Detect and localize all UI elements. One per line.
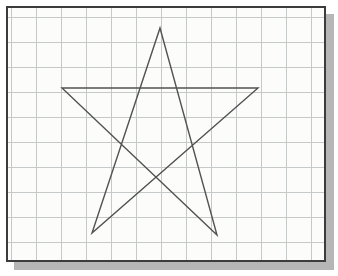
graph-paper-grid [8,8,324,260]
star-polygon [62,28,258,235]
page-background [0,0,338,276]
star-drawing [8,8,324,260]
drawing-panel [6,6,326,262]
